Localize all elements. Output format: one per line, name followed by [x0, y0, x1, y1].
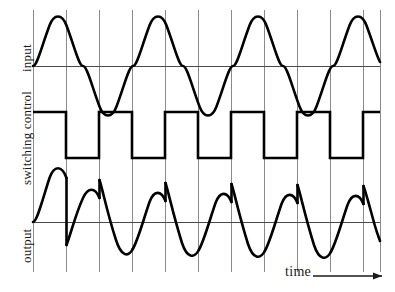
output-axis-label: output	[19, 229, 35, 263]
output-seg-10	[331, 196, 364, 252]
output-seg-9	[298, 185, 331, 258]
output-seg-3	[100, 180, 133, 254]
output-waveform-segments	[33, 168, 380, 258]
output-seg-2	[67, 190, 100, 245]
output-seg-11	[364, 186, 381, 241]
waveform-svg	[0, 0, 395, 292]
zero-axes	[33, 67, 380, 223]
time-arrow-head	[373, 273, 382, 280]
waveform-figure: input switching control output time	[0, 0, 395, 292]
input-axis-label: input	[19, 44, 35, 72]
switching-control-waveform	[33, 112, 380, 158]
output-seg-1	[33, 168, 67, 222]
output-seg-5	[166, 183, 199, 256]
output-seg-4	[133, 193, 166, 249]
time-arrow-icon	[313, 273, 382, 280]
output-seg-7	[232, 184, 265, 257]
time-axis-label: time	[285, 264, 311, 280]
switching-control-axis-label: switching control	[19, 91, 35, 185]
